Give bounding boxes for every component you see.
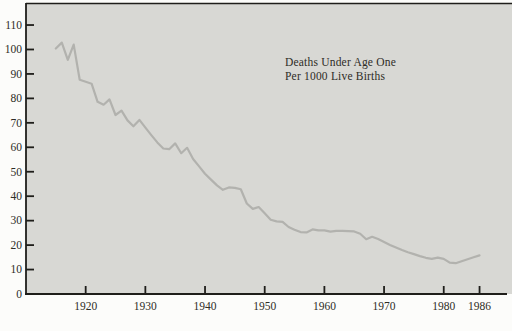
plot-background (26, 4, 512, 294)
y-axis-tick-label: 30 (11, 214, 23, 226)
y-axis-tick-label: 10 (11, 263, 23, 275)
chart-title: Deaths Under Age One Per 1000 Live Birth… (285, 56, 396, 83)
x-axis-tick-label: 1950 (253, 300, 276, 312)
chart-title-line-2: Per 1000 Live Births (285, 70, 396, 84)
y-axis-tick-label: 0 (16, 288, 22, 300)
x-axis-tick-label: 1986 (468, 300, 491, 312)
y-axis-tick-label: 20 (11, 239, 23, 251)
y-axis-tick-label: 90 (11, 68, 23, 80)
x-axis-tick-label: 1920 (74, 300, 97, 312)
y-axis-tick-label: 100 (5, 43, 23, 55)
chart-title-line-1: Deaths Under Age One (285, 56, 396, 70)
line-chart: 0102030405060708090100110192019301940195… (0, 0, 512, 331)
x-axis-tick-label: 1940 (194, 300, 217, 312)
y-axis-tick-label: 80 (11, 92, 23, 104)
y-axis-tick-label: 110 (5, 19, 22, 31)
y-axis-tick-label: 40 (11, 190, 23, 202)
x-axis-tick-label: 1960 (313, 300, 336, 312)
y-axis-tick-label: 50 (11, 166, 23, 178)
x-axis-tick-label: 1970 (373, 300, 396, 312)
infant-mortality-figure: 0102030405060708090100110192019301940195… (0, 0, 512, 331)
y-axis-tick-label: 60 (11, 141, 23, 153)
x-axis-tick-label: 1980 (432, 300, 455, 312)
y-axis-tick-label: 70 (11, 117, 23, 129)
x-axis-tick-label: 1930 (134, 300, 157, 312)
